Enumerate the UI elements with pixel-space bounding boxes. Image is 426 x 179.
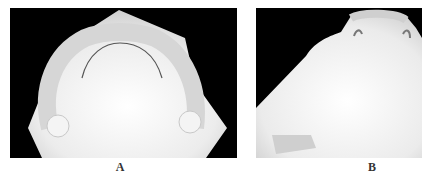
panel-a-photo [10, 8, 237, 158]
panel-a-label: A [105, 160, 135, 175]
dental-cast-b-image [256, 8, 422, 158]
panel-b-label: B [357, 160, 387, 175]
dental-cast-a-image [10, 8, 237, 158]
panel-b-photo [256, 8, 422, 158]
